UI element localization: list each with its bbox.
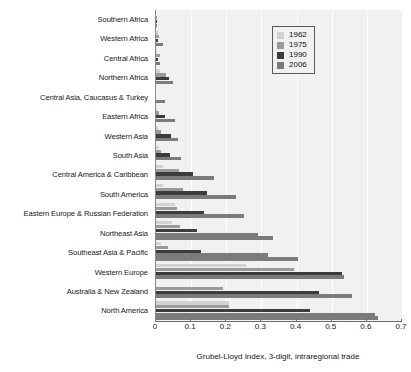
bar xyxy=(156,229,197,232)
bar xyxy=(156,111,159,114)
bar xyxy=(156,157,181,160)
category-label: South America xyxy=(0,185,152,204)
bar xyxy=(156,138,178,141)
legend-swatch-icon xyxy=(277,32,284,39)
category-label: South Asia xyxy=(0,146,152,165)
category-label: Northern Africa xyxy=(0,68,152,87)
category-label: Southern Africa xyxy=(0,10,152,29)
x-tick-label: 0.1 xyxy=(185,322,196,331)
bar xyxy=(156,287,223,290)
category-axis: Southern AfricaWestern AfricaCentral Afr… xyxy=(0,10,152,321)
bar-group xyxy=(156,105,402,124)
bar xyxy=(156,272,342,275)
bar xyxy=(156,275,344,278)
category-label: Eastern Africa xyxy=(0,107,152,126)
x-axis-title: Grubel-Lloyd Index, 3-digit, intraregion… xyxy=(155,352,401,361)
bar-group xyxy=(156,281,402,300)
bar xyxy=(156,20,157,23)
bar xyxy=(156,35,159,38)
bar-group xyxy=(156,144,402,163)
category-label: Western Africa xyxy=(0,29,152,48)
bar xyxy=(156,16,157,19)
bar xyxy=(156,236,273,239)
legend-swatch-icon xyxy=(277,62,284,69)
bar xyxy=(156,130,161,133)
legend-item: 1990 xyxy=(277,50,307,60)
bar xyxy=(156,62,160,65)
gridline xyxy=(402,10,403,321)
bar-group xyxy=(156,220,402,241)
bar xyxy=(156,211,204,214)
category-label: North America xyxy=(0,302,152,321)
bar-group xyxy=(156,124,402,143)
bar xyxy=(156,81,173,84)
bar xyxy=(156,214,244,217)
bar xyxy=(156,305,229,308)
bar xyxy=(156,169,179,172)
bar-group xyxy=(156,182,402,201)
bar-group xyxy=(156,201,402,220)
bar xyxy=(156,176,214,179)
legend-label: 1975 xyxy=(289,41,307,49)
legend-swatch-icon xyxy=(277,52,284,59)
legend-item: 2006 xyxy=(277,60,307,70)
bar xyxy=(156,150,161,153)
legend-label: 1962 xyxy=(289,31,307,39)
bar xyxy=(156,233,258,236)
category-label: Central Asia, Caucasus & Turkey xyxy=(0,88,152,107)
bar xyxy=(156,184,163,187)
x-tick-label: 0.2 xyxy=(220,322,231,331)
bar xyxy=(156,301,229,304)
bar xyxy=(156,191,207,194)
bar xyxy=(156,221,172,224)
category-label: Central Africa xyxy=(0,49,152,68)
bar xyxy=(156,268,294,271)
bar xyxy=(156,153,170,156)
bar-group xyxy=(156,163,402,182)
bar xyxy=(156,115,165,118)
bar xyxy=(156,242,161,245)
bar xyxy=(156,264,246,267)
bar xyxy=(156,172,193,175)
bar xyxy=(156,165,163,168)
bar xyxy=(156,77,169,80)
bar xyxy=(156,127,158,130)
bar xyxy=(156,39,158,42)
bar-group xyxy=(156,262,402,281)
category-label: Central America & Caribbean xyxy=(0,166,152,185)
bar xyxy=(156,69,160,72)
bar xyxy=(156,134,171,137)
bar xyxy=(156,291,319,294)
bar xyxy=(156,43,163,46)
bar xyxy=(156,146,159,149)
x-tick-label: 0.5 xyxy=(325,322,336,331)
bar xyxy=(156,309,310,312)
bar-group xyxy=(156,86,402,105)
x-tick-label: 0.7 xyxy=(395,322,406,331)
bar xyxy=(156,119,175,122)
bar xyxy=(156,108,157,111)
legend-swatch-icon xyxy=(277,42,284,49)
category-label: Western Asia xyxy=(0,127,152,146)
legend: 1962197519902006 xyxy=(272,26,315,74)
legend-item: 1975 xyxy=(277,40,307,50)
bar xyxy=(156,31,158,34)
bar xyxy=(156,225,180,228)
x-tick-label: 0.3 xyxy=(255,322,266,331)
grubel-lloyd-bar-chart: Southern AfricaWestern AfricaCentral Afr… xyxy=(0,0,411,372)
x-axis-ticks: 00.10.20.30.40.50.60.7 xyxy=(155,322,401,336)
bar xyxy=(156,207,177,210)
bar xyxy=(156,195,236,198)
bar xyxy=(156,246,168,249)
category-label: Eastern Europe & Russian Federation xyxy=(0,204,152,223)
x-tick-label: 0.4 xyxy=(290,322,301,331)
bar xyxy=(156,313,375,316)
legend-item: 1962 xyxy=(277,30,307,40)
bar xyxy=(156,257,298,260)
bar xyxy=(156,253,268,256)
category-label: Southeast Asia & Pacific xyxy=(0,243,152,262)
category-label: Northeast Asia xyxy=(0,224,152,243)
bar xyxy=(156,73,166,76)
bar xyxy=(156,294,352,297)
bar-group xyxy=(156,300,402,321)
